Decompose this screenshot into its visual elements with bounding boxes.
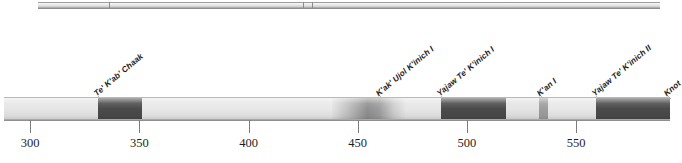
reign-segment	[506, 98, 539, 119]
axis-tick-label: 550	[567, 136, 586, 151]
upper-row-divider	[109, 2, 110, 9]
reign-segment	[548, 98, 596, 119]
upper-row-strip	[38, 2, 660, 9]
reign-segment	[441, 98, 507, 119]
ruler-label: Te' K'ab' Chaak	[92, 52, 145, 98]
axis-tick-label: 300	[21, 136, 40, 151]
ruler-label: Knot	[662, 79, 682, 98]
upper-row-divider	[303, 2, 304, 9]
axis-tick	[576, 120, 577, 133]
axis-tick	[30, 120, 31, 133]
reign-segment	[98, 98, 142, 119]
axis-tick-label: 350	[130, 136, 149, 151]
reign-segment	[596, 98, 670, 119]
axis-tick-label: 450	[348, 136, 367, 151]
reign-band[interactable]	[4, 97, 670, 120]
ruler-label: Yajaw Te' K'inich I	[435, 45, 496, 98]
reign-segment	[4, 98, 98, 119]
reign-segment	[539, 98, 548, 119]
ruler-label: Yajaw Te' K'inich II	[590, 43, 653, 98]
axis-line	[4, 120, 670, 121]
ruler-label-group: Te' K'ab' ChaakK'ak' Ujol K'inich IYajaw…	[0, 40, 674, 98]
ruler-label: K'ak' Ujol K'inich I	[374, 45, 435, 98]
ruler-label: K'an I	[535, 77, 558, 98]
axis-tick	[358, 120, 359, 133]
axis-tick	[139, 120, 140, 133]
upper-row-divider	[312, 2, 313, 9]
axis-tick	[467, 120, 468, 133]
axis-tick-label: 400	[239, 136, 258, 151]
axis-tick	[249, 120, 250, 133]
axis-tick-label: 500	[458, 136, 477, 151]
reign-segment	[406, 98, 441, 119]
reign-segment	[332, 98, 406, 119]
reign-segment	[142, 98, 332, 119]
